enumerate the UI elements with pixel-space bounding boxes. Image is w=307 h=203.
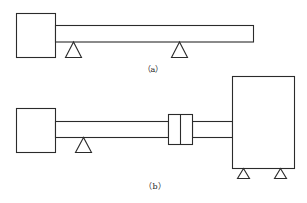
subfigure-label-a: （a） <box>143 65 164 74</box>
support-triangle-b-load-2 <box>275 169 287 179</box>
subfigure-label-b: （b） <box>144 182 165 191</box>
diagram-canvas: （a） （b） <box>0 0 307 203</box>
subfigure-a: （a） <box>17 14 254 75</box>
shaft-right-b <box>193 122 233 138</box>
shaft-a <box>56 26 254 43</box>
motor-box-b <box>17 109 56 153</box>
support-triangle-a-2 <box>172 42 188 58</box>
motor-box-a <box>17 14 56 58</box>
load-box-b <box>233 77 295 169</box>
support-triangle-b-load-1 <box>238 169 250 179</box>
subfigure-b: （b） <box>17 77 295 192</box>
support-triangle-a-1 <box>66 42 82 58</box>
support-triangle-b-shaft <box>76 138 92 153</box>
shaft-left-b <box>56 122 169 138</box>
